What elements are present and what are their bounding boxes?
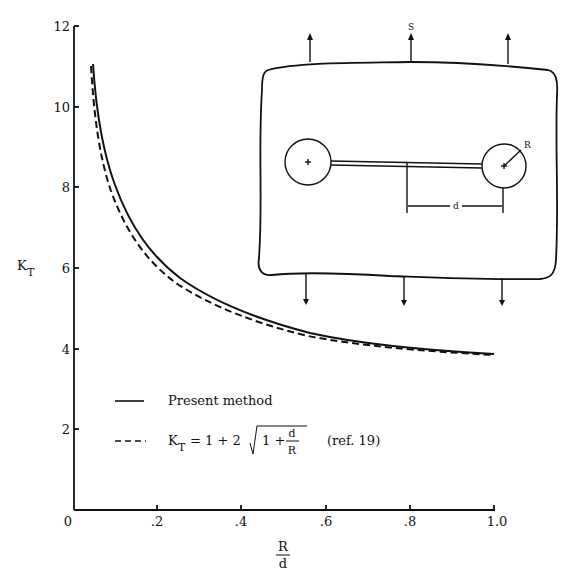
legend: Present method K T = 1 + 2 1 + d R (ref.…	[115, 393, 380, 457]
legend-solid-label: Present method	[168, 393, 273, 408]
svg-text:T: T	[27, 266, 35, 279]
svg-text:= 1 + 2: = 1 + 2	[190, 433, 241, 448]
stress-label: S	[408, 22, 414, 32]
present-method-curve	[93, 64, 494, 354]
plate-outline	[259, 62, 558, 279]
y-tick-6: 6	[62, 261, 70, 276]
x-tick-1.0: 1.0	[487, 514, 508, 529]
x-tick-labels: 0 .2 .4 .6 .8 1.0	[64, 514, 507, 529]
x-tick-0: 0	[64, 514, 72, 529]
y-tick-4: 4	[62, 342, 70, 357]
x-tick-0.6: .6	[320, 514, 332, 529]
x-tick-0.8: .8	[404, 514, 416, 529]
svg-text:K: K	[168, 433, 178, 448]
chart-canvas: 12 10 8 6 4 2 0 .2 .4 .6 .8 1.0 K T R d …	[0, 0, 574, 579]
svg-text:R: R	[278, 539, 289, 554]
y-tick-10: 10	[53, 100, 70, 115]
svg-text:(ref. 19): (ref. 19)	[327, 433, 380, 448]
x-tick-0.4: .4	[235, 514, 247, 529]
radius-label: R	[524, 140, 531, 150]
y-tick-12: 12	[53, 19, 70, 34]
distance-label: d	[453, 201, 459, 211]
legend-formula: K T = 1 + 2 1 + d R (ref. 19)	[168, 426, 380, 457]
y-tick-8: 8	[62, 180, 70, 195]
svg-text:d: d	[279, 556, 287, 571]
x-axis-label: R d	[276, 539, 290, 571]
svg-text:d: d	[288, 427, 295, 440]
x-tick-0.2: .2	[151, 514, 163, 529]
svg-text:1 +: 1 +	[262, 433, 285, 448]
svg-text:R: R	[288, 444, 297, 457]
y-axis-label: K T	[17, 258, 35, 279]
y-tick-labels: 12 10 8 6 4 2	[53, 19, 70, 437]
inset-diagram	[259, 33, 558, 306]
ref19-curve	[91, 66, 494, 355]
y-tick-2: 2	[62, 422, 70, 437]
svg-text:K: K	[17, 258, 27, 273]
svg-text:T: T	[178, 441, 186, 454]
